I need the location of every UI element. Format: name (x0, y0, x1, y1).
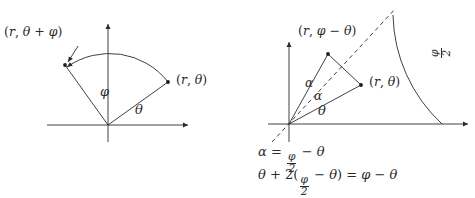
left-label-r-theta-plus-phi: (r, θ + φ) (4, 26, 62, 39)
left-label-r-theta: (r, θ) (176, 74, 207, 87)
left-angle-label-theta: θ (135, 103, 143, 116)
left-angle-label-phi: φ (100, 85, 109, 98)
right-angle-label-theta: θ (318, 104, 326, 117)
equation-theta-identity: θ + 2(φ2 − θ) = φ − θ (258, 168, 397, 198)
right-arc-label-phi-over-2: φ2 (423, 39, 445, 59)
left-rotation-arc (67, 53, 168, 82)
left-panel-geometry (47, 24, 188, 142)
right-label-r-theta: (r, θ) (369, 76, 400, 89)
polar-rotation-figure (0, 0, 475, 198)
left-label-pointer-arrow (68, 46, 78, 62)
left-dot-r-theta (166, 80, 170, 84)
right-angle-label-alpha-upper: α (305, 77, 313, 89)
right-chord-between-points (328, 54, 361, 85)
right-dot-r-phi-minus-theta (326, 52, 330, 56)
left-dot-r-theta-plus-phi (63, 63, 67, 67)
right-label-r-phi-minus-theta: (r, φ − θ) (298, 25, 356, 38)
right-arc (393, 15, 442, 124)
right-angle-label-alpha-lower: α (314, 90, 322, 102)
right-dot-r-theta (359, 83, 363, 87)
